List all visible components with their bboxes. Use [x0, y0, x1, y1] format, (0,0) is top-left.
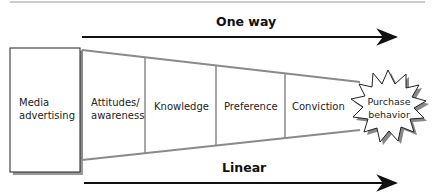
one-way-label: One way — [216, 14, 276, 29]
stage-attitudes: Attitudes/ awareness — [91, 96, 144, 122]
stage-conviction: Conviction — [292, 100, 345, 113]
source-box-label: Media advertising — [19, 96, 75, 122]
linear-label: Linear — [222, 160, 266, 175]
outcome-label: Purchase behavior — [367, 95, 411, 121]
stage-knowledge: Knowledge — [154, 100, 209, 113]
stage-preference: Preference — [224, 100, 278, 113]
